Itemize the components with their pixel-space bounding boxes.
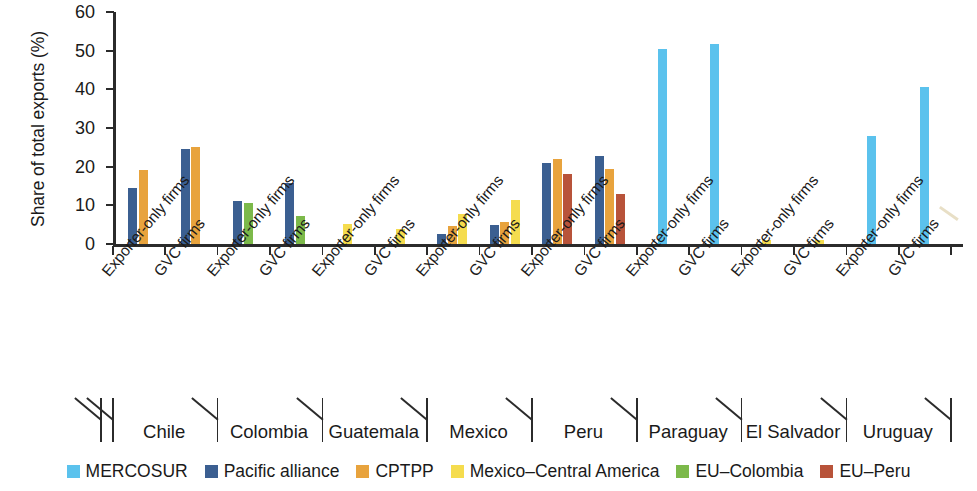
legend-swatch-icon [676,465,689,478]
x-axis-label: Exporter-only firms [832,172,927,280]
country-label: Guatemala [322,421,426,443]
x-axis-label: GVC firms [779,215,838,280]
country-divider-diagonal [74,398,101,421]
scan-artifact [939,206,958,221]
bar [658,49,667,244]
legend-item[interactable]: EU–Peru [820,462,910,480]
country-label: Mexico [426,421,530,443]
y-tick-label: 60 [55,3,95,21]
legend-label: MERCOSUR [86,462,188,480]
legend-swatch-icon [356,465,369,478]
legend-swatch-icon [67,465,80,478]
legend-swatch-icon [820,465,833,478]
country-divider-diagonal [505,398,532,421]
legend-label: EU–Colombia [695,462,803,480]
x-axis-label: GVC firms [360,215,419,280]
y-axis-line [113,12,116,246]
country-divider-diagonal [924,398,951,421]
chart-legend: MERCOSURPacific allianceCPTPPMexico–Cent… [0,462,977,480]
country-divider-diagonal [191,398,218,421]
y-tick-label: 0 [55,235,95,253]
y-tick-mark [106,88,114,90]
x-axis-label: GVC firms [675,215,734,280]
y-tick-label: 30 [55,119,95,137]
country-divider-diagonal [401,398,428,421]
y-tick-mark [106,50,114,52]
y-axis-title: Share of total exports (%) [28,4,50,254]
country-label: Paraguay [636,421,740,443]
y-tick-mark [106,127,114,129]
x-axis-label: Exporter-only firms [308,172,403,280]
legend-item[interactable]: EU–Colombia [676,462,803,480]
legend-label: Mexico–Central America [470,462,660,480]
x-axis-label: Exporter-only firms [727,172,822,280]
legend-item[interactable]: CPTPP [356,462,433,480]
country-divider-diagonal [610,398,637,421]
country-label: Chile [112,421,216,443]
legend-label: EU–Peru [839,462,910,480]
country-label: Colombia [217,421,321,443]
legend-item[interactable]: Mexico–Central America [451,462,660,480]
country-divider-diagonal [715,398,742,421]
y-tick-label: 10 [55,196,95,214]
y-tick-mark [106,204,114,206]
y-tick-mark [106,11,114,13]
legend-swatch-icon [205,465,218,478]
y-tick-label: 50 [55,42,95,60]
country-label: Uruguay [846,421,950,443]
y-tick-mark [106,243,114,245]
legend-item[interactable]: MERCOSUR [67,462,188,480]
legend-label: Pacific alliance [224,462,340,480]
chart-figure: Share of total exports (%) 0102030405060… [0,0,977,491]
country-divider-diagonal [296,398,323,421]
legend-label: CPTPP [375,462,433,480]
y-tick-mark [106,166,114,168]
bar [710,44,719,244]
y-tick-label: 40 [55,80,95,98]
country-label: Peru [531,421,635,443]
x-axis-label: GVC firms [884,215,943,280]
legend-swatch-icon [451,465,464,478]
x-axis-label: Exporter-only firms [622,172,717,280]
x-axis-label: Exporter-only firms [203,172,298,280]
country-label: El Salvador [741,421,845,443]
legend-item[interactable]: Pacific alliance [205,462,340,480]
y-tick-label: 20 [55,158,95,176]
country-divider-diagonal [820,398,847,421]
x-tick-mark [950,246,952,255]
